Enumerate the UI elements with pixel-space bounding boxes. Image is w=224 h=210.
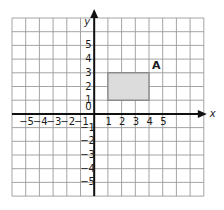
- y-tick-label: 2: [85, 82, 91, 92]
- y-axis-arrow-icon: [90, 9, 98, 18]
- x-tick-label: 2: [119, 117, 125, 127]
- x-axis-arrow-icon: [198, 110, 207, 118]
- x-tick-label: −4: [33, 117, 48, 127]
- y-tick-label: −5: [80, 177, 95, 187]
- y-tick-label: −3: [80, 150, 95, 160]
- y-axis-label: y: [84, 16, 90, 27]
- y-tick-label: 5: [85, 40, 91, 50]
- x-tick-label: 5: [160, 117, 166, 127]
- origin-label: 0: [85, 102, 91, 112]
- grid-canvas: [0, 0, 224, 210]
- y-tick-label: 3: [85, 68, 91, 78]
- x-axis-label: x: [210, 108, 216, 119]
- x-tick-label: 1: [105, 117, 111, 127]
- x-tick-label: −2: [60, 117, 75, 127]
- y-tick-label: −2: [80, 136, 95, 146]
- x-tick-label: 3: [133, 117, 139, 127]
- x-tick-label: −5: [19, 117, 34, 127]
- shape-label-A: A: [152, 59, 161, 72]
- shape-rectangle: [108, 73, 149, 100]
- y-tick-label: −4: [80, 164, 95, 174]
- coordinate-grid-diagram: −5−4−3−2−11234554321−1−2−3−4−50xyA: [0, 0, 224, 210]
- x-tick-label: 4: [147, 117, 153, 127]
- y-tick-label: 4: [85, 54, 91, 64]
- x-tick-label: −3: [47, 117, 62, 127]
- y-tick-label: −1: [80, 123, 95, 133]
